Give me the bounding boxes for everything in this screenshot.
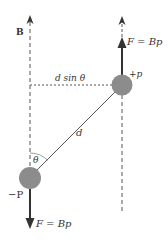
top-force-label: F = Bp [127,37,162,47]
field-label: B [16,28,24,37]
perpendicular-distance-label: d sin θ [55,74,85,83]
force-arrowhead-icon [118,37,127,48]
field-line-left [27,15,34,168]
negative-charge-label: −P [8,190,23,200]
separation-label: d [76,128,82,138]
angle-label: θ [33,156,38,165]
force-arrow-up [118,37,127,75]
force-arrow-down [26,189,35,229]
force-arrowhead-icon [26,218,35,229]
field-arrow-icon [119,16,126,25]
bottom-force-label: F = Bp [36,219,71,229]
negative-charge [19,167,41,189]
positive-charge-label: +p [129,70,142,79]
